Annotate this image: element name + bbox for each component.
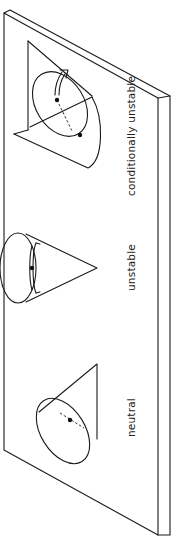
label-neutral: neutral xyxy=(125,398,137,437)
cone-unstable xyxy=(0,233,97,303)
label-conditionally-unstable: conditionally unstable xyxy=(125,76,137,196)
cone-neutral xyxy=(25,364,100,473)
label-unstable: unstable xyxy=(125,244,137,291)
equilibrium-diagram xyxy=(0,0,183,541)
cone-conditionally-unstable xyxy=(14,41,101,168)
